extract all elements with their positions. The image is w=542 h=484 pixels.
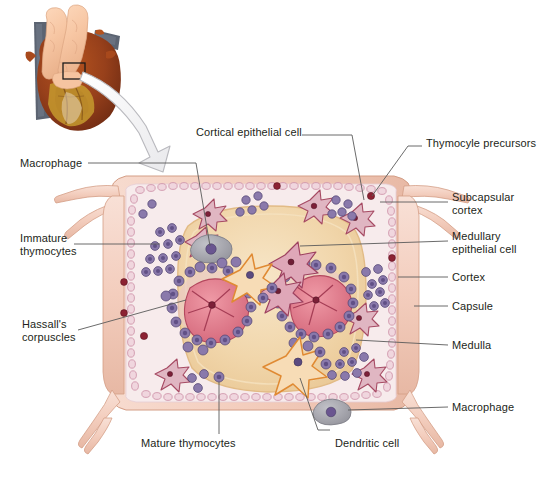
heart-thymus-inset: [26, 5, 121, 131]
label-capsule: Capsule: [452, 300, 493, 313]
label-macrophage-bottom: Macrophage: [452, 401, 514, 414]
thymus-section: [54, 176, 469, 454]
label-dendritic-cell: Dendritic cell: [335, 437, 399, 450]
label-thymocyte-precursors: Thymocyle precursors: [426, 137, 536, 150]
label-cortex: Cortex: [452, 271, 485, 284]
thymus-diagram-figure: Cortical epithelial cell Thymocyle precu…: [0, 0, 542, 484]
label-macrophage-top: Macrophage: [20, 157, 82, 170]
label-medullary-epithelial-cell: Medullary epithelial cell: [452, 230, 516, 255]
label-immature-thymocytes: Immature thymocytes: [20, 232, 77, 257]
label-medulla: Medulla: [452, 339, 491, 352]
label-subcapsular-cortex: Subcapsular cortex: [452, 191, 514, 216]
label-cortical-epithelial-cell: Cortical epithelial cell: [196, 126, 302, 139]
label-mature-thymocytes: Mature thymocytes: [141, 437, 236, 450]
label-hassalls-corpuscles: Hassall's corpuscles: [22, 318, 76, 343]
